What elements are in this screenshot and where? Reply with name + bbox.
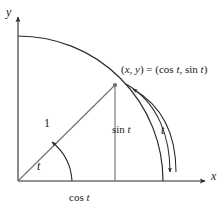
point-marker bbox=[113, 83, 117, 87]
cosine-label-var: t bbox=[86, 191, 89, 203]
cosine-label: cos t bbox=[69, 192, 89, 203]
arc-length-label: t bbox=[161, 124, 164, 136]
diagram-canvas bbox=[0, 0, 223, 212]
radius-segment bbox=[18, 85, 115, 181]
y-axis-label: y bbox=[6, 6, 11, 18]
angle-arc bbox=[52, 142, 72, 181]
sine-label-var: t bbox=[128, 123, 131, 135]
x-axis-label: x bbox=[211, 170, 216, 182]
point-label-mid: , sin bbox=[179, 63, 200, 75]
angle-label: t bbox=[37, 160, 40, 172]
point-label-equals: ) = (cos bbox=[140, 63, 176, 75]
point-label-close: ) bbox=[204, 63, 208, 75]
sine-label-fn: sin bbox=[112, 123, 128, 135]
sine-label: sin t bbox=[112, 124, 131, 135]
cosine-label-fn: cos bbox=[69, 191, 86, 203]
radius-length-label: 1 bbox=[44, 117, 50, 129]
point-coordinates-label: (x, y) = (cos t, sin t) bbox=[121, 64, 207, 75]
unit-circle-diagram: y x (x, y) = (cos t, sin t) 1 t sin t co… bbox=[0, 0, 223, 212]
